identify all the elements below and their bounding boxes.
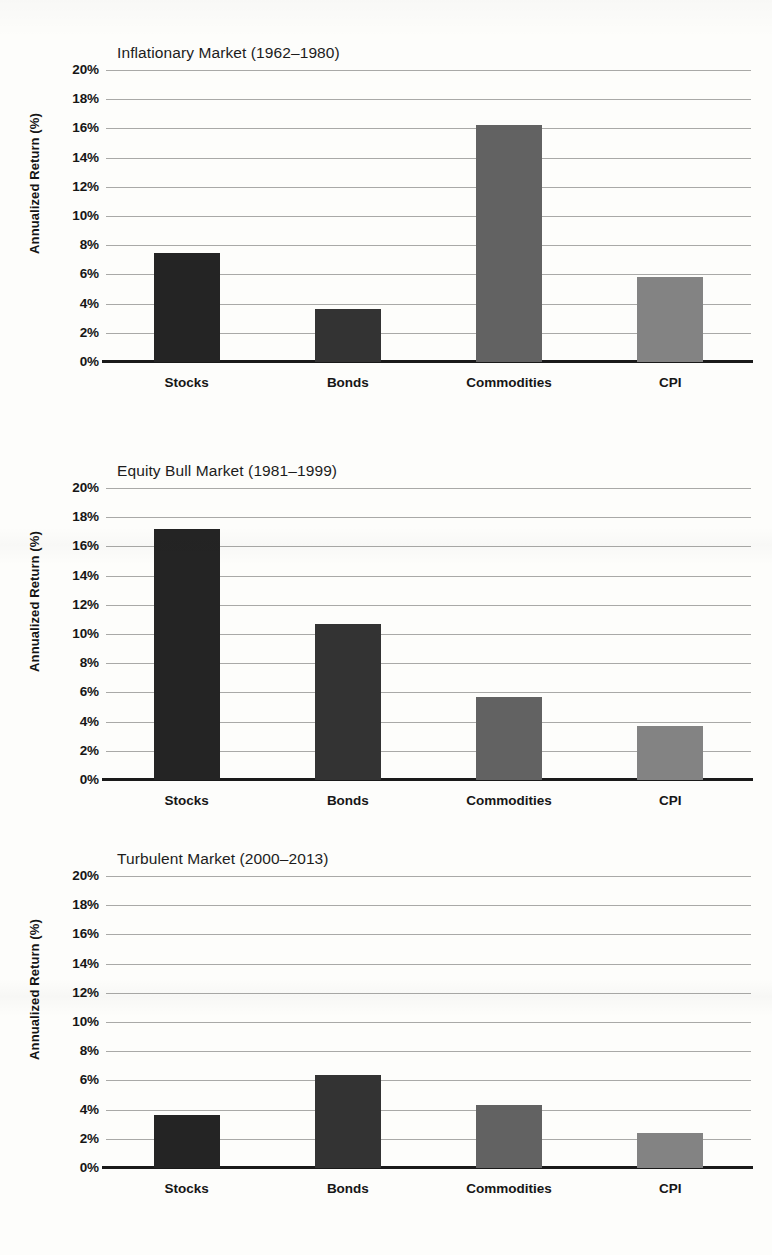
x-axis-tick: CPI [659, 375, 682, 390]
y-axis-tick: 4% [80, 296, 99, 311]
bar [637, 277, 703, 362]
bar [154, 253, 220, 363]
y-axis-label: Annualized Return (%) [27, 512, 42, 692]
chart-title: Inflationary Market (1962–1980) [117, 44, 340, 62]
gridline [106, 128, 751, 129]
x-axis-tick: CPI [659, 793, 682, 808]
bar [154, 1115, 220, 1168]
plot-area: 0%2%4%6%8%10%12%14%16%18%20%StocksBondsC… [106, 876, 751, 1168]
gridline [106, 905, 751, 906]
y-axis-tick: 10% [72, 626, 99, 641]
y-axis-tick: 8% [80, 237, 99, 252]
bar [315, 309, 381, 362]
x-axis-tick: Bonds [327, 1181, 369, 1196]
y-axis-tick: 12% [72, 597, 99, 612]
chart-title: Equity Bull Market (1981–1999) [117, 462, 337, 480]
bar [315, 624, 381, 780]
y-axis-tick: 12% [72, 985, 99, 1000]
y-axis-tick: 6% [80, 267, 99, 282]
chart-title: Turbulent Market (2000–2013) [117, 850, 329, 868]
y-axis-tick: 20% [72, 62, 99, 77]
bar [637, 726, 703, 780]
y-axis-tick: 4% [80, 1102, 99, 1117]
x-axis-tick: Stocks [164, 375, 208, 390]
bar [154, 529, 220, 780]
y-axis-tick: 18% [72, 509, 99, 524]
gridline [106, 964, 751, 965]
y-axis-tick: 10% [72, 1014, 99, 1029]
plot-area: 0%2%4%6%8%10%12%14%16%18%20%StocksBondsC… [106, 70, 751, 362]
gridline [106, 216, 751, 217]
y-axis-tick: 6% [80, 1073, 99, 1088]
y-axis-tick: 0% [80, 354, 99, 369]
bar [476, 1105, 542, 1168]
gridline [106, 876, 751, 877]
y-axis-tick: 12% [72, 179, 99, 194]
y-axis-tick: 8% [80, 1043, 99, 1058]
x-axis-tick: Commodities [466, 1181, 552, 1196]
x-axis-tick: Bonds [327, 375, 369, 390]
bar [476, 125, 542, 362]
x-axis-tick: Stocks [164, 793, 208, 808]
gridline [106, 1022, 751, 1023]
y-axis-tick: 14% [72, 150, 99, 165]
y-axis-tick: 0% [80, 772, 99, 787]
plot-area: 0%2%4%6%8%10%12%14%16%18%20%StocksBondsC… [106, 488, 751, 780]
x-axis-tick: Commodities [466, 375, 552, 390]
y-axis-tick: 10% [72, 208, 99, 223]
x-axis-tick: Commodities [466, 793, 552, 808]
bar [476, 697, 542, 780]
y-axis-tick: 0% [80, 1160, 99, 1175]
chart-figure: Inflationary Market (1962–1980) Annualiz… [0, 0, 772, 1255]
y-axis-tick: 16% [72, 121, 99, 136]
gridline [106, 187, 751, 188]
x-axis-tick: Stocks [164, 1181, 208, 1196]
y-axis-tick: 18% [72, 897, 99, 912]
y-axis-tick: 16% [72, 927, 99, 942]
y-axis-tick: 16% [72, 539, 99, 554]
bar [315, 1075, 381, 1168]
gridline [106, 158, 751, 159]
gridline [106, 1110, 751, 1111]
y-axis-tick: 8% [80, 655, 99, 670]
gridline [106, 245, 751, 246]
y-axis-tick: 20% [72, 868, 99, 883]
gridline [106, 488, 751, 489]
y-axis-tick: 18% [72, 91, 99, 106]
bar [637, 1133, 703, 1168]
gridline [106, 99, 751, 100]
x-axis-tick: Bonds [327, 793, 369, 808]
y-axis-tick: 6% [80, 685, 99, 700]
gridline [106, 934, 751, 935]
gridline [106, 70, 751, 71]
y-axis-tick: 14% [72, 568, 99, 583]
y-axis-tick: 14% [72, 956, 99, 971]
y-axis-tick: 20% [72, 480, 99, 495]
y-axis-label: Annualized Return (%) [27, 94, 42, 274]
gridline [106, 1051, 751, 1052]
y-axis-tick: 2% [80, 325, 99, 340]
gridline [106, 517, 751, 518]
y-axis-label: Annualized Return (%) [27, 900, 42, 1080]
y-axis-tick: 2% [80, 1131, 99, 1146]
y-axis-tick: 2% [80, 743, 99, 758]
gridline [106, 1080, 751, 1081]
gridline [106, 993, 751, 994]
x-axis-tick: CPI [659, 1181, 682, 1196]
y-axis-tick: 4% [80, 714, 99, 729]
